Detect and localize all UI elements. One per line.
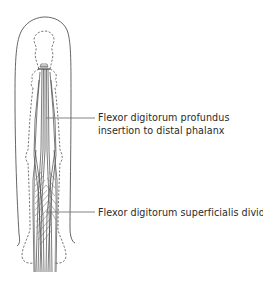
label-flexor-digitorum-superficialis: Flexor digitorum superficialis dividing — [98, 206, 263, 219]
label-line: Flexor digitorum profundus — [98, 111, 229, 124]
finger-anatomy-figure: Flexor digitorum profundus insertion to … — [0, 0, 263, 285]
label-line: insertion to distal phalanx — [98, 124, 229, 137]
label-line: Flexor digitorum superficialis dividing — [98, 206, 263, 219]
flexor-tendons — [33, 67, 57, 272]
tendon-insertion-fibers — [40, 63, 48, 67]
label-flexor-digitorum-profundus: Flexor digitorum profundus insertion to … — [98, 111, 229, 137]
